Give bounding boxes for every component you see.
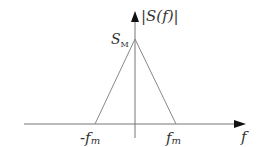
peak-label: SM xyxy=(111,31,129,49)
pos-fm-label: fm xyxy=(165,129,181,147)
x-axis-arrow-icon xyxy=(234,120,246,128)
neg-fm-label: -fm xyxy=(80,129,100,147)
y-axis-label: |S(f)| xyxy=(141,7,179,25)
spectrum-diagram: |S(f)| SM -fm fm f xyxy=(0,0,263,147)
y-axis-arrow-icon xyxy=(131,11,139,22)
x-axis-label: f xyxy=(240,128,249,146)
